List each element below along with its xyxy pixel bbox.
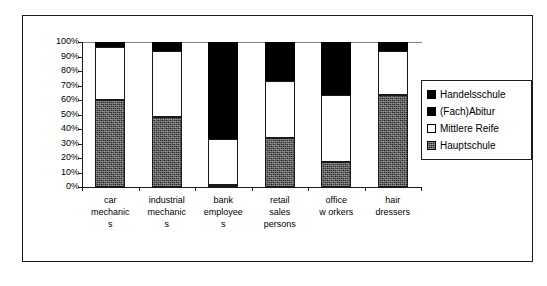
legend-label: (Fach)Abitur	[440, 107, 495, 117]
plot-area: carmechanicsindustrialmechanicsbankemplo…	[82, 42, 421, 187]
legend-item: Handelsschule	[427, 86, 527, 103]
bar-segment	[208, 42, 238, 139]
stacked-bar	[95, 42, 125, 187]
legend-item: (Fach)Abitur	[427, 103, 527, 120]
x-axis-tick	[421, 187, 422, 191]
plot-top-gridline	[82, 42, 422, 43]
category-label-line: w orkers	[305, 206, 367, 218]
chart-legend: Handelsschule(Fach)AbiturMittlere ReifeH…	[421, 80, 532, 160]
y-axis-tick	[78, 71, 83, 72]
bar-segment	[152, 117, 182, 187]
legend-label: Mittlere Reife	[440, 124, 499, 134]
stacked-bar	[152, 42, 182, 187]
x-axis-tick	[195, 187, 196, 191]
chart-frame: 100%90%80%70%60%50%40%30%20%10%0% carmec…	[22, 15, 533, 262]
category-label-line: s	[192, 218, 254, 230]
y-axis-tick-label: 100%	[56, 37, 79, 46]
bar-segment	[378, 42, 408, 51]
y-axis-tick	[78, 129, 83, 130]
y-axis-tick	[78, 173, 83, 174]
category-label-line: bank	[192, 194, 254, 206]
category-label-line: dressers	[362, 206, 424, 218]
x-axis-category-label: industrialmechanics	[136, 194, 198, 230]
y-axis-tick	[78, 187, 83, 188]
x-axis-tick	[252, 187, 253, 191]
y-axis-tick-label: 30%	[61, 139, 79, 148]
y-axis-tick-label: 20%	[61, 153, 79, 162]
legend-item: Mittlere Reife	[427, 120, 527, 137]
legend-swatch-icon	[427, 141, 436, 150]
bar-segment	[378, 95, 408, 187]
y-axis-tick	[78, 144, 83, 145]
y-axis-tick-label: 10%	[61, 168, 79, 177]
y-axis-tick	[78, 115, 83, 116]
category-label-line: mechanic	[136, 206, 198, 218]
legend-swatch-icon	[427, 107, 436, 116]
legend-label: Handelsschule	[440, 90, 506, 100]
y-axis-tick-label: 50%	[61, 110, 79, 119]
bar-segment	[378, 51, 408, 95]
bar-segment	[321, 42, 351, 95]
category-label-line: industrial	[136, 194, 198, 206]
x-axis-category-label: officew orkers	[305, 194, 367, 218]
stacked-bar	[378, 42, 408, 187]
bar-segment	[321, 162, 351, 187]
y-axis-tick	[78, 158, 83, 159]
x-axis-category-label: hairdressers	[362, 194, 424, 218]
x-axis-tick	[365, 187, 366, 191]
bar-segment	[265, 42, 295, 81]
category-label-line: s	[136, 218, 198, 230]
legend-swatch-icon	[427, 124, 436, 133]
bar-segment	[208, 185, 238, 187]
y-axis-tick-label: 60%	[61, 95, 79, 104]
category-label-line: car	[79, 194, 141, 206]
y-axis-tick-label: 70%	[61, 81, 79, 90]
category-label-line: employee	[192, 206, 254, 218]
x-axis-tick	[308, 187, 309, 191]
bar-segment	[95, 100, 125, 187]
y-axis-tick-label: 80%	[61, 66, 79, 75]
bar-segment	[265, 81, 295, 138]
stacked-bar	[265, 42, 295, 187]
legend-label: Hauptschule	[440, 141, 496, 151]
bar-segment	[95, 42, 125, 47]
category-label-line: retail	[249, 194, 311, 206]
category-label-line: persons	[249, 218, 311, 230]
y-axis-tick-label: 40%	[61, 124, 79, 133]
category-label-line: s	[79, 218, 141, 230]
category-label-line: sales	[249, 206, 311, 218]
x-axis-tick	[139, 187, 140, 191]
bar-segment	[152, 51, 182, 118]
category-label-line: mechanic	[79, 206, 141, 218]
bar-segment	[321, 95, 351, 162]
stacked-bar	[321, 42, 351, 187]
y-axis-tick	[78, 100, 83, 101]
stacked-bar	[208, 42, 238, 187]
y-axis-tick	[78, 42, 83, 43]
y-axis-tick-label: 90%	[61, 52, 79, 61]
x-axis-category-label: bankemployees	[192, 194, 254, 230]
y-axis-labels: 100%90%80%70%60%50%40%30%20%10%0%	[39, 42, 79, 188]
category-label-line: hair	[362, 194, 424, 206]
legend-item: Hauptschule	[427, 137, 527, 154]
x-axis-category-label: carmechanics	[79, 194, 141, 230]
category-label-line: office	[305, 194, 367, 206]
x-axis-category-label: retailsalespersons	[249, 194, 311, 230]
legend-swatch-icon	[427, 90, 436, 99]
bar-segment	[152, 42, 182, 51]
bar-segment	[265, 138, 295, 187]
y-axis-tick	[78, 86, 83, 87]
bar-segment	[95, 47, 125, 100]
bar-segment	[208, 139, 238, 185]
y-axis-tick	[78, 57, 83, 58]
